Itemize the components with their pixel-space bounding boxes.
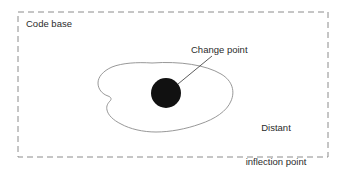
distant-inflection-point-label-line2: inflection point xyxy=(238,156,314,167)
distant-inflection-point-label: Distant inflection point xyxy=(238,100,314,171)
change-point-marker xyxy=(151,78,181,108)
change-point-label: Change point xyxy=(191,44,248,55)
code-base-label: Code base xyxy=(26,18,72,29)
diagram-canvas: Code base Change point Distant inflectio… xyxy=(0,0,345,171)
distant-inflection-point-label-line1: Distant xyxy=(238,122,314,133)
